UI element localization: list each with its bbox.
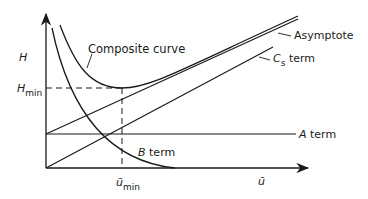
asymptote-line xyxy=(46,19,298,134)
u-min-label: ūmin xyxy=(116,177,140,188)
asymptote-leader xyxy=(278,33,291,36)
y-axis-label: H xyxy=(19,52,27,63)
cs-term-label: Cs term xyxy=(273,53,315,64)
cs-leader xyxy=(259,57,270,60)
b-term-label: B term xyxy=(138,147,175,158)
composite-curve-label: Composite curve xyxy=(88,44,185,56)
composite-leader xyxy=(87,54,92,68)
h-min-label: Hmin xyxy=(17,83,42,94)
asymptote-label: Asymptote xyxy=(294,30,354,41)
x-axis-label: ū xyxy=(258,176,265,187)
a-term-label: A term xyxy=(299,129,336,140)
